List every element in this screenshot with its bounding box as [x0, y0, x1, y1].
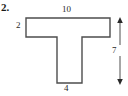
t-shape-drawing: [0, 0, 128, 96]
t-shape-polygon: [26, 18, 110, 83]
dimension-label-left-height: 2: [16, 21, 21, 30]
dimension-label-right-height: 7: [112, 46, 117, 55]
geometry-figure: 2. 10 2 7 4: [0, 0, 128, 96]
right-height-arrow: [117, 17, 123, 85]
arrowhead-up-icon: [117, 17, 123, 23]
arrowhead-down-icon: [117, 79, 123, 85]
dimension-label-top-width: 10: [62, 5, 71, 14]
dimension-label-bottom-width: 4: [64, 84, 69, 93]
